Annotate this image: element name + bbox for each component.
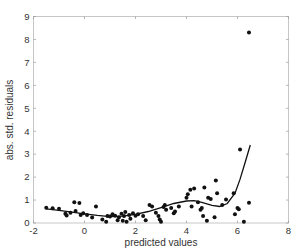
x-tick-label: 8 [286,225,291,236]
x-tick-label: 4 [184,225,189,236]
data-point [104,220,108,224]
data-point [196,200,200,204]
data-point [150,204,154,208]
data-point [121,219,125,223]
data-point [173,210,177,214]
data-point [90,215,94,219]
data-point [65,213,69,217]
data-point [214,179,218,183]
data-point [74,209,78,213]
data-point [117,215,121,219]
data-point [232,191,236,195]
x-axis-label: predicted values [125,237,198,248]
data-point [202,185,206,189]
data-point [127,213,131,217]
y-tick-label: 4 [24,126,29,137]
data-point [123,210,127,214]
scatter-chart: -2024680123456789 predicted values abs. … [0,0,304,252]
data-point [125,220,129,224]
data-point [185,196,189,200]
data-point [220,203,224,207]
data-point [233,212,237,216]
data-point [81,211,85,215]
data-point [224,198,228,202]
data-point [77,201,81,205]
x-tick-label: 6 [235,225,240,236]
x-tick-label: 0 [82,225,87,236]
data-point [163,203,167,207]
data-point [100,218,104,222]
y-tick-label: 0 [24,217,29,228]
y-tick-label: 3 [24,148,29,159]
y-tick-label: 1 [24,194,29,205]
data-point [141,214,145,218]
data-point [159,220,163,224]
data-point [136,212,140,216]
data-point [238,148,242,152]
data-point [51,206,55,210]
data-point [85,213,89,217]
data-point [192,187,196,191]
plot-area [34,17,289,224]
y-tick-label: 9 [24,11,29,22]
y-tick-label: 8 [24,34,29,45]
data-point [122,214,126,218]
data-point [242,220,246,224]
data-point [156,214,160,218]
data-point [247,31,251,35]
data-point [213,215,217,219]
y-tick-label: 7 [24,57,29,68]
data-point [94,204,98,208]
data-point [215,191,219,195]
y-axis-label: abs. std. residuals [4,80,15,161]
data-point [44,206,48,210]
data-point [201,214,205,218]
data-point [186,192,190,196]
data-point [247,201,251,205]
data-point [72,200,76,204]
data-point [154,211,158,215]
data-point [177,204,181,208]
data-point [190,204,194,208]
data-point [144,218,148,222]
data-point [164,208,168,212]
x-tick-label: 2 [133,225,138,236]
data-point [113,214,117,218]
data-point [169,206,173,210]
data-point [205,219,209,223]
y-tick-label: 6 [24,80,29,91]
data-point [128,217,132,221]
y-tick-label: 2 [24,171,29,182]
data-point [68,211,72,215]
data-point [57,207,61,211]
data-point [237,207,241,211]
y-tick-label: 5 [24,103,29,114]
data-point [188,188,192,192]
x-tick-label: -2 [29,225,37,236]
data-point [209,197,213,201]
data-point [200,206,204,210]
